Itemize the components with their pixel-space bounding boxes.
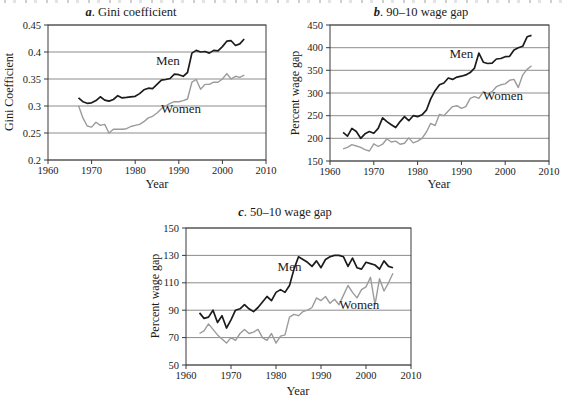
svg-text:Men: Men: [278, 259, 302, 274]
chart-c-plot: 507090110130150196019701980199020002010M…: [140, 198, 440, 405]
svg-text:1980: 1980: [125, 165, 146, 176]
svg-text:0.25: 0.25: [23, 128, 41, 139]
svg-text:1960: 1960: [38, 165, 59, 176]
svg-text:300: 300: [307, 88, 323, 99]
svg-text:0.4: 0.4: [28, 47, 42, 58]
chart-panel-c: c. 50–10 wage gap Percent wage gap 50709…: [140, 198, 440, 405]
svg-text:50: 50: [169, 360, 180, 371]
svg-text:Women: Women: [161, 101, 202, 116]
svg-text:2010: 2010: [401, 370, 422, 381]
svg-text:1990: 1990: [168, 165, 189, 176]
svg-text:450: 450: [307, 20, 323, 31]
svg-text:1970: 1970: [221, 370, 242, 381]
chart-panel-a: a. Gini coefficient Gini Coefficient 0.2…: [0, 0, 285, 198]
chart-panel-b: b. 90–10 wage gap Percent wage gap 15020…: [285, 0, 574, 198]
svg-text:70: 70: [169, 332, 180, 343]
svg-text:0.45: 0.45: [23, 20, 41, 31]
svg-text:250: 250: [307, 110, 323, 121]
svg-text:90: 90: [169, 305, 180, 316]
svg-text:1960: 1960: [320, 166, 341, 177]
svg-text:1990: 1990: [311, 370, 332, 381]
svg-text:2010: 2010: [539, 166, 560, 177]
svg-text:400: 400: [307, 42, 323, 53]
chart-a-xlabel: Year: [117, 177, 197, 192]
svg-text:1970: 1970: [363, 166, 384, 177]
svg-text:1960: 1960: [176, 370, 197, 381]
svg-text:1970: 1970: [81, 165, 102, 176]
svg-text:2000: 2000: [495, 166, 516, 177]
chart-b-xlabel: Year: [399, 177, 479, 192]
figure-page: a. Gini coefficient Gini Coefficient 0.2…: [0, 0, 574, 405]
svg-text:0.2: 0.2: [28, 155, 41, 166]
chart-b-plot: 1502002503003504004501960197019801990200…: [285, 0, 574, 198]
svg-text:2010: 2010: [256, 165, 277, 176]
svg-text:110: 110: [164, 277, 179, 288]
chart-a-plot: 0.20.250.30.350.40.451960197019801990200…: [0, 0, 285, 198]
svg-text:Men: Men: [156, 53, 180, 68]
svg-text:130: 130: [163, 250, 179, 261]
svg-text:Men: Men: [449, 46, 473, 61]
svg-text:0.3: 0.3: [28, 101, 41, 112]
svg-text:Women: Women: [483, 88, 524, 103]
chart-c-xlabel: Year: [258, 384, 338, 399]
svg-text:1980: 1980: [266, 370, 287, 381]
svg-text:350: 350: [307, 65, 323, 76]
svg-text:1990: 1990: [451, 166, 472, 177]
svg-text:200: 200: [307, 133, 323, 144]
svg-text:1980: 1980: [407, 166, 428, 177]
svg-text:150: 150: [307, 156, 323, 167]
svg-text:150: 150: [163, 223, 179, 234]
svg-text:0.35: 0.35: [23, 74, 41, 85]
svg-text:2000: 2000: [212, 165, 233, 176]
svg-text:2000: 2000: [356, 370, 377, 381]
svg-text:Women: Women: [339, 297, 380, 312]
